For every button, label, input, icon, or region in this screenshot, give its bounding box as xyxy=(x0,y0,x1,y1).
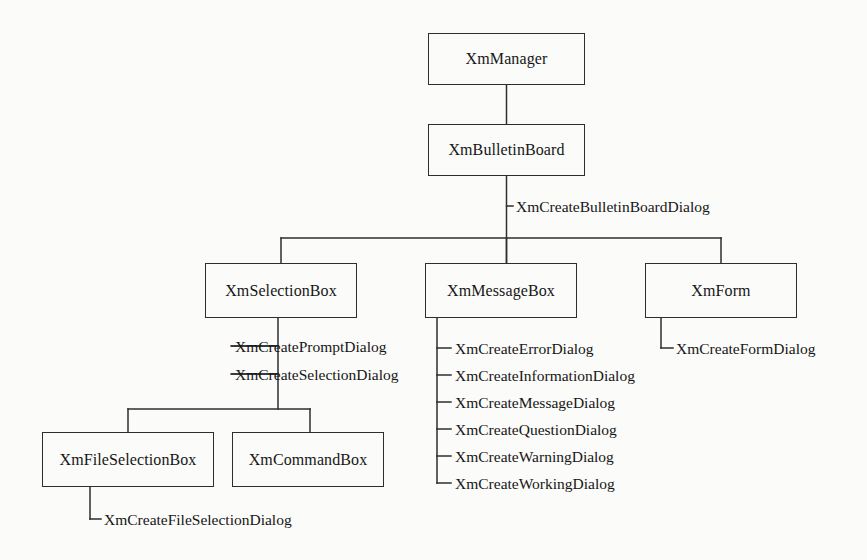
node-label-xmmanager: XmManager xyxy=(466,51,548,67)
leaf-createpromptdialog: XmCreatePromptDialog xyxy=(235,339,387,355)
leaf-createerrordialog: XmCreateErrorDialog xyxy=(455,341,594,357)
node-label-xmbulletinboard: XmBulletinBoard xyxy=(448,142,564,158)
node-xmcommandbox[interactable]: XmCommandBox xyxy=(232,432,384,487)
node-xmmanager[interactable]: XmManager xyxy=(428,33,585,85)
diagram-canvas: XmManager XmBulletinBoard XmSelectionBox… xyxy=(0,0,867,560)
node-label-xmmessagebox: XmMessageBox xyxy=(447,283,555,299)
node-label-xmfileselectionbox: XmFileSelectionBox xyxy=(60,452,197,468)
leaf-createinformationdialog: XmCreateInformationDialog xyxy=(455,368,635,384)
leaf-createbulletinboarddialog: XmCreateBulletinBoardDialog xyxy=(516,199,710,215)
leaf-createfileselectiondialog: XmCreateFileSelectionDialog xyxy=(104,512,292,528)
node-label-xmform: XmForm xyxy=(691,283,750,299)
leaf-createworkingdialog: XmCreateWorkingDialog xyxy=(455,476,615,492)
node-label-xmcommandbox: XmCommandBox xyxy=(249,452,368,468)
leaf-createwarningdialog: XmCreateWarningDialog xyxy=(455,449,614,465)
leaf-createquestiondialog: XmCreateQuestionDialog xyxy=(455,422,617,438)
node-xmfileselectionbox[interactable]: XmFileSelectionBox xyxy=(42,432,214,487)
node-label-xmselectionbox: XmSelectionBox xyxy=(225,283,337,299)
node-xmform[interactable]: XmForm xyxy=(645,263,797,318)
node-xmselectionbox[interactable]: XmSelectionBox xyxy=(205,263,357,318)
node-xmbulletinboard[interactable]: XmBulletinBoard xyxy=(428,124,585,176)
leaf-createmessagedialog: XmCreateMessageDialog xyxy=(455,395,615,411)
leaf-createselectiondialog: XmCreateSelectionDialog xyxy=(235,367,399,383)
node-xmmessagebox[interactable]: XmMessageBox xyxy=(425,263,577,318)
leaf-createformdialog: XmCreateFormDialog xyxy=(676,341,815,357)
